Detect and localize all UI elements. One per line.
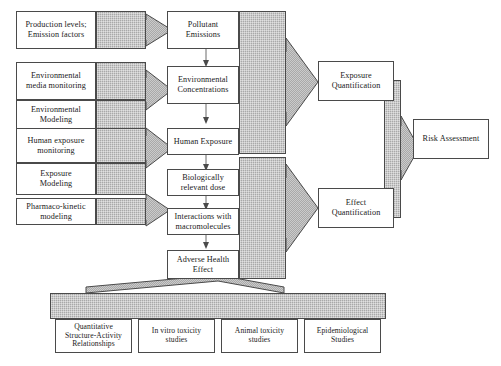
outcome-label-risk-assessment: Risk Assessment: [416, 134, 486, 144]
chain-box-human-exposure[interactable]: Human Exposure: [167, 128, 239, 155]
hatch-input-env-modeling: [96, 100, 146, 130]
input-label-production: Production levels;Emission factors: [19, 20, 93, 39]
chain-label-human-exposure: Human Exposure: [170, 137, 236, 147]
chain-box-pollutant-emissions[interactable]: PollutantEmissions: [167, 11, 239, 49]
hatch-evidence-panel: [50, 293, 386, 319]
chain-box-biologically-relevant-dose[interactable]: Biologicallyrelevant dose: [167, 169, 239, 196]
hatch-input-production: [96, 11, 146, 49]
evidence-box-animal-toxicity[interactable]: Animal toxicitystudies: [221, 319, 298, 353]
chain-box-interactions-macromolecules[interactable]: Interactions withmacromolecules: [167, 208, 239, 235]
input-box-env-modeling[interactable]: EnvironmentalModeling: [16, 100, 96, 130]
evidence-label-in-vitro: In vitro toxicitystudies: [141, 327, 212, 345]
input-box-pharmacokinetic-modeling[interactable]: Pharmaco-kineticmodeling: [16, 198, 96, 225]
hatch-input-pk-modeling: [96, 198, 146, 225]
evidence-box-qsar[interactable]: QuantitativeStructure-ActivityRelationsh…: [55, 319, 132, 353]
quantification-label-exposure: ExposureQuantification: [321, 71, 391, 90]
hatch-exposure-column: [239, 11, 286, 154]
evidence-box-epidemiological[interactable]: EpidemiologicalStudies: [304, 319, 381, 353]
evidence-label-epidemiological: EpidemiologicalStudies: [307, 327, 378, 345]
chain-label-pollutant-emissions: PollutantEmissions: [170, 20, 236, 39]
input-label-env-modeling: EnvironmentalModeling: [19, 105, 93, 124]
evidence-box-in-vitro[interactable]: In vitro toxicitystudies: [138, 319, 215, 353]
chain-label-interactions-macromolecules: Interactions withmacromolecules: [170, 212, 236, 231]
hatch-effect-column: [239, 157, 286, 279]
input-label-exposure-modeling: ExposureModeling: [19, 169, 93, 188]
chain-box-adverse-health-effect[interactable]: Adverse HealthEffect: [167, 250, 239, 279]
input-box-human-exposure-monitoring[interactable]: Human exposuremonitoring: [16, 128, 96, 163]
quantification-box-effect[interactable]: EffectQuantification: [318, 188, 394, 228]
input-label-env-media: Environmentalmedia monitoring: [19, 71, 93, 90]
chain-label-environmental-concentrations: EnvironmentalConcentrations: [170, 75, 236, 94]
quantification-label-effect: EffectQuantification: [321, 198, 391, 217]
evidence-label-qsar: QuantitativeStructure-ActivityRelationsh…: [58, 323, 129, 350]
input-box-exposure-modeling[interactable]: ExposureModeling: [16, 163, 96, 195]
quantification-box-exposure[interactable]: ExposureQuantification: [318, 61, 394, 101]
hatch-input-env-media: [96, 62, 146, 100]
evidence-label-animal-toxicity: Animal toxicitystudies: [224, 327, 295, 345]
hatch-input-human-exp: [96, 128, 146, 163]
hatch-input-exp-modeling: [96, 163, 146, 195]
input-box-production[interactable]: Production levels;Emission factors: [16, 11, 96, 49]
input-label-pharmacokinetic-modeling: Pharmaco-kineticmodeling: [19, 202, 93, 221]
input-box-env-media[interactable]: Environmentalmedia monitoring: [16, 62, 96, 100]
chain-label-adverse-health-effect: Adverse HealthEffect: [170, 255, 236, 274]
chain-box-environmental-concentrations[interactable]: EnvironmentalConcentrations: [167, 66, 239, 104]
outcome-box-risk-assessment[interactable]: Risk Assessment: [413, 119, 489, 159]
diagram-canvas: Production levels;Emission factors Envir…: [0, 0, 501, 366]
chain-label-biologically-relevant-dose: Biologicallyrelevant dose: [170, 173, 236, 192]
input-label-human-exposure-monitoring: Human exposuremonitoring: [19, 136, 93, 155]
